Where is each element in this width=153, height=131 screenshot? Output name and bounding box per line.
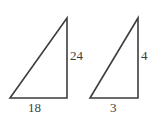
geometry-figure: 24 18 4 3 (0, 0, 153, 131)
right-triangle-base-label: 3 (110, 101, 117, 114)
right-triangle-vertical-leg-label: 4 (141, 49, 148, 62)
triangles-svg (0, 0, 153, 131)
left-triangle-shape (10, 18, 67, 98)
right-triangle-shape (90, 18, 138, 98)
left-triangle-vertical-leg-label: 24 (70, 49, 83, 62)
left-triangle-base-label: 18 (28, 101, 41, 114)
